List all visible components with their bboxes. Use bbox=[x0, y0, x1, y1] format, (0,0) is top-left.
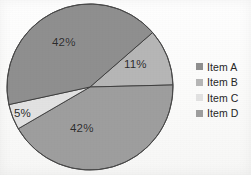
chart-plot-area: 42% 11% 5% 42% bbox=[0, 0, 186, 175]
legend-label: Item B bbox=[207, 76, 238, 88]
legend-item-item-b[interactable]: Item B bbox=[196, 75, 251, 91]
legend-label: Item A bbox=[207, 61, 237, 73]
legend-item-item-d[interactable]: Item D bbox=[196, 106, 251, 122]
legend: Item A Item B Item C Item D bbox=[196, 59, 251, 121]
pie-svg bbox=[0, 0, 186, 175]
pie-chart-figure: 42% 11% 5% 42% Item A Item B Item C Item… bbox=[0, 0, 251, 175]
pie-label-item-d: 42% bbox=[70, 122, 94, 134]
legend-swatch-icon bbox=[196, 110, 203, 117]
legend-label: Item D bbox=[207, 107, 239, 119]
legend-swatch-icon bbox=[196, 94, 203, 101]
legend-swatch-icon bbox=[196, 79, 203, 86]
legend-swatch-icon bbox=[196, 63, 203, 70]
legend-item-item-a[interactable]: Item A bbox=[196, 59, 251, 75]
pie-label-item-a: 42% bbox=[52, 36, 76, 48]
pie-label-item-c: 5% bbox=[14, 107, 31, 119]
pie-label-item-b: 11% bbox=[124, 58, 147, 70]
legend-item-item-c[interactable]: Item C bbox=[196, 90, 251, 106]
legend-label: Item C bbox=[207, 92, 239, 104]
